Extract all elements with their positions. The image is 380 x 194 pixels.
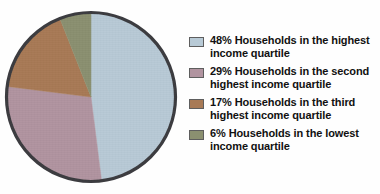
pie-slice[interactable] bbox=[91, 13, 175, 181]
legend-swatch-highest-quartile bbox=[189, 37, 204, 47]
pie-svg bbox=[4, 9, 178, 185]
legend-label-third-highest-quartile: 17% Households in the third highest inco… bbox=[210, 96, 355, 121]
pie-slice[interactable] bbox=[7, 86, 102, 181]
legend-item-second-highest-quartile[interactable]: 29% Households in the second highest inc… bbox=[189, 65, 377, 90]
legend-item-highest-quartile[interactable]: 48% Households in the highest income qua… bbox=[189, 34, 377, 59]
legend: 48% Households in the highest income qua… bbox=[189, 34, 377, 152]
legend-swatch-third-highest-quartile bbox=[189, 99, 204, 109]
legend-label-highest-quartile: 48% Households in the highest income qua… bbox=[210, 34, 370, 59]
legend-label-lowest-quartile: 6% Households in the lowest income quart… bbox=[210, 127, 359, 152]
legend-swatch-lowest-quartile bbox=[189, 130, 204, 140]
pie-chart-figure: 48% Households in the highest income qua… bbox=[0, 0, 380, 194]
legend-swatch-second-highest-quartile bbox=[189, 68, 204, 78]
legend-label-second-highest-quartile: 29% Households in the second highest inc… bbox=[210, 65, 369, 90]
pie-chart-graphic bbox=[4, 9, 178, 185]
legend-item-lowest-quartile[interactable]: 6% Households in the lowest income quart… bbox=[189, 127, 377, 152]
legend-item-third-highest-quartile[interactable]: 17% Households in the third highest inco… bbox=[189, 96, 377, 121]
